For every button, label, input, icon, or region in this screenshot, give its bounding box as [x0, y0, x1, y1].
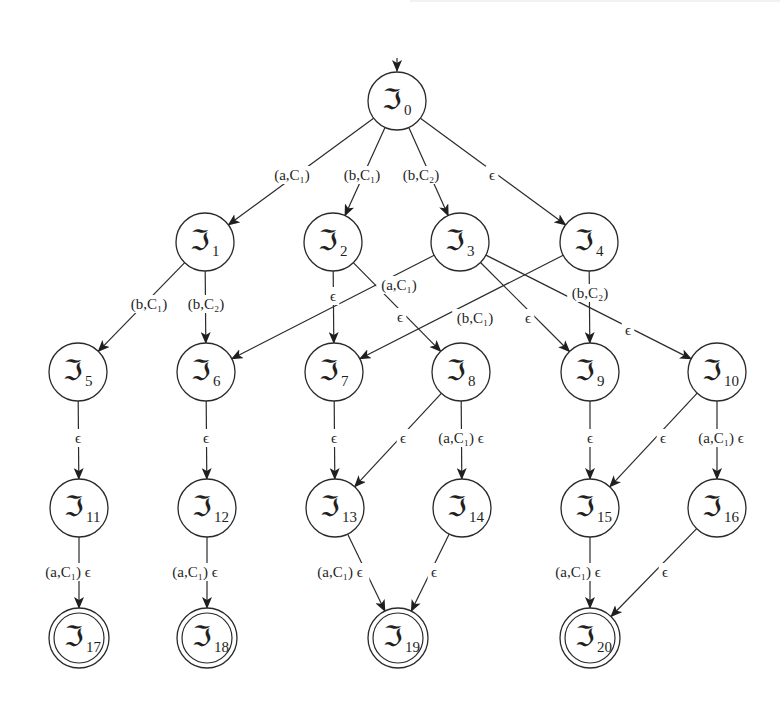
edge-label-text: (a,C₁) ϵ	[172, 564, 217, 581]
edge-label-text: ϵ	[662, 564, 668, 580]
state-node: ℑ6	[177, 343, 235, 401]
edge-label: ϵ	[394, 308, 407, 326]
edge-label: (a,C₁) ϵ	[432, 429, 491, 447]
fraktur-i-symbol: ℑ	[191, 354, 211, 387]
edge-label: (a,C₁) ϵ	[166, 563, 225, 581]
state-node: ℑ0	[368, 72, 426, 130]
edge-label-text: ϵ	[397, 309, 403, 325]
edge-label-text: ϵ	[489, 167, 495, 183]
edges-layer	[78, 58, 717, 617]
state-node: ℑ9	[561, 343, 619, 401]
accepting-state-node: ℑ19	[368, 608, 428, 668]
state-node: ℑ8	[432, 343, 490, 401]
fraktur-i-symbol: ℑ	[192, 490, 212, 523]
edge-label-text: ϵ	[330, 288, 336, 304]
state-node: ℑ14	[433, 479, 491, 537]
edge-n4-n9	[589, 271, 590, 343]
fraktur-i-symbol: ℑ	[64, 620, 84, 653]
edge-label-text: ϵ	[525, 310, 531, 326]
state-node: ℑ5	[49, 343, 107, 401]
fraktur-i-symbol: ℑ	[446, 354, 466, 387]
accepting-state-node: ℑ17	[49, 608, 109, 668]
edge-label-text: ϵ	[625, 322, 631, 338]
state-node: ℑ1	[176, 213, 234, 271]
state-node: ℑ16	[688, 479, 746, 537]
edge-label: (a,C₁) ϵ	[311, 563, 370, 581]
edge-label-text: (a,C₁)	[381, 277, 417, 294]
edge-label: (a,C₁)	[269, 166, 315, 184]
fraktur-i-symbol: ℑ	[319, 354, 339, 387]
edge-label: ϵ	[200, 429, 213, 447]
node-subscript: 8	[468, 373, 476, 389]
node-subscript: 14	[469, 509, 485, 525]
node-subscript: 18	[214, 639, 229, 655]
node-subscript: 5	[85, 373, 93, 389]
edge-label: (a,C₁)	[376, 276, 422, 294]
node-subscript: 9	[597, 373, 605, 389]
node-subscript: 17	[86, 639, 102, 655]
edge-labels-layer: (a,C₁)(b,C₁)(b,C₂)ϵ(b,C₁)(b,C₂)ϵϵ(a,C₁)ϵ…	[39, 166, 751, 581]
edge-n10-n15	[610, 393, 697, 487]
state-node: ℑ2	[304, 213, 362, 271]
fraktur-i-symbol: ℑ	[382, 83, 402, 116]
state-node: ℑ12	[178, 479, 236, 537]
edge-label: ϵ	[584, 429, 597, 447]
edge-label-text: (b,C₁)	[457, 310, 493, 327]
fraktur-i-symbol: ℑ	[575, 490, 595, 523]
edge-label: (b,C₁)	[126, 295, 172, 313]
node-subscript: 4	[596, 243, 604, 259]
edge-label: ϵ	[397, 429, 410, 447]
edge-label: (b,C₂)	[398, 166, 444, 184]
node-subscript: 3	[467, 243, 475, 259]
fraktur-i-symbol: ℑ	[447, 490, 467, 523]
edge-label-text: (a,C₁) ϵ	[438, 430, 483, 447]
fraktur-i-symbol: ℑ	[383, 620, 403, 653]
edge-label-text: ϵ	[203, 430, 209, 446]
edge-label: ϵ	[657, 429, 670, 447]
fraktur-i-symbol: ℑ	[318, 224, 338, 257]
node-subscript: 15	[597, 509, 612, 525]
fraktur-i-symbol: ℑ	[702, 490, 722, 523]
node-subscript: 13	[342, 509, 357, 525]
state-node: ℑ3	[431, 213, 489, 271]
edge-label-text: ϵ	[431, 564, 437, 580]
fraktur-i-symbol: ℑ	[64, 490, 84, 523]
edge-label-text: ϵ	[400, 430, 406, 446]
node-subscript: 7	[341, 373, 349, 389]
state-node: ℑ15	[561, 479, 619, 537]
accepting-state-node: ℑ20	[560, 608, 620, 668]
state-node: ℑ13	[306, 479, 364, 537]
fraktur-i-symbol: ℑ	[575, 620, 595, 653]
edge-label-text: ϵ	[587, 430, 593, 446]
nodes-layer: ℑ0ℑ1ℑ2ℑ3ℑ4ℑ5ℑ6ℑ7ℑ8ℑ9ℑ10ℑ11ℑ12ℑ13ℑ14ℑ15ℑ1…	[49, 72, 746, 668]
state-node: ℑ4	[560, 213, 618, 271]
fraktur-i-symbol: ℑ	[445, 224, 465, 257]
node-subscript: 16	[724, 509, 740, 525]
node-subscript: 19	[405, 639, 420, 655]
fraktur-i-symbol: ℑ	[190, 224, 210, 257]
edge-label: ϵ	[428, 563, 441, 581]
fraktur-i-symbol: ℑ	[574, 224, 594, 257]
edge-label: (a,C₁) ϵ	[692, 429, 751, 447]
fraktur-i-symbol: ℑ	[320, 490, 340, 523]
edge-label-text: (b,C₂)	[188, 296, 224, 313]
edge-label-text: (b,C₁)	[131, 296, 167, 313]
edge-label: ϵ	[659, 563, 672, 581]
edge-label-text: ϵ	[331, 430, 337, 446]
fraktur-i-symbol: ℑ	[192, 620, 212, 653]
edge-label: (a,C₁) ϵ	[549, 563, 608, 581]
fraktur-i-symbol: ℑ	[63, 354, 83, 387]
fraktur-i-symbol: ℑ	[575, 354, 595, 387]
edge-label-text: (b,C₂)	[403, 167, 439, 184]
edge-label: ϵ	[522, 309, 535, 327]
node-subscript: 6	[213, 373, 221, 389]
edge-label-text: (a,C₁) ϵ	[698, 430, 743, 447]
edge-label-text: (b,C₁)	[344, 167, 380, 184]
edge-label: (b,C₁)	[339, 166, 385, 184]
edge-label-text: (a,C₁) ϵ	[555, 564, 600, 581]
fraktur-i-symbol: ℑ	[702, 354, 722, 387]
edge-label-text: ϵ	[75, 430, 81, 446]
edge-label: (b,C₂)	[567, 284, 613, 302]
edge-label-text: (a,C₁) ϵ	[45, 564, 90, 581]
edge-label-text: (a,C₁) ϵ	[317, 564, 362, 581]
